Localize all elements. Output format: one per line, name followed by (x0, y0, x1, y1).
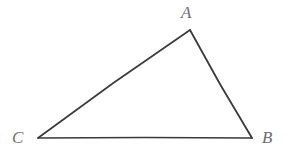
vertex-label-a: A (181, 4, 191, 21)
triangle-drawing-canvas (0, 0, 286, 153)
vertex-label-c: C (12, 129, 23, 146)
triangle-figure: A C B (0, 0, 286, 153)
triangle-edge-bc (38, 137, 252, 138)
vertex-label-b: B (262, 129, 272, 146)
figure-background (0, 0, 286, 153)
